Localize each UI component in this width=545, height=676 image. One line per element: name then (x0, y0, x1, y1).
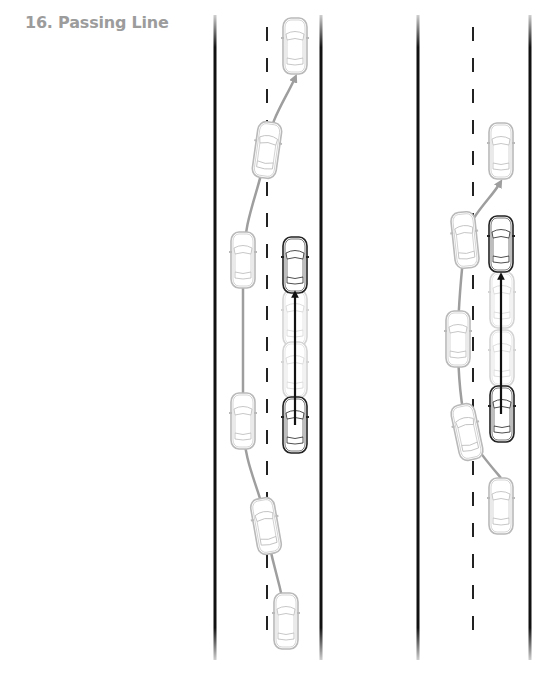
lane-dash (266, 244, 268, 258)
car-gray-icon (487, 478, 515, 534)
lane-dash (266, 27, 268, 41)
lane-dash (472, 27, 474, 41)
lane-dash (472, 616, 474, 630)
road-edge-left (417, 15, 420, 660)
lane-dash (472, 523, 474, 537)
lane-dash (266, 461, 268, 475)
lane-dash (266, 554, 268, 568)
road-edge-right (529, 15, 532, 660)
car-gray-icon (444, 311, 472, 367)
lane-dash (266, 275, 268, 289)
road-edge-left (214, 15, 217, 660)
car-dark-icon (281, 237, 309, 293)
lane-dash (472, 492, 474, 506)
lane-dash (472, 337, 474, 351)
car-gray-icon (229, 232, 257, 288)
lane-dash (472, 275, 474, 289)
diagram-correct-passing (417, 15, 532, 660)
lane-dash (472, 151, 474, 165)
lane-dash (472, 554, 474, 568)
lane-dash (472, 182, 474, 196)
car-gray-icon (487, 123, 515, 179)
lane-dash (266, 368, 268, 382)
car-gray-icon (247, 496, 284, 556)
lane-dash (472, 368, 474, 382)
passing-line-diagram (0, 0, 545, 676)
lane-dash (266, 430, 268, 444)
lane-dash (266, 306, 268, 320)
lane-dash (266, 58, 268, 72)
lane-dash (266, 616, 268, 630)
lane-dash (472, 461, 474, 475)
lane-dash (266, 585, 268, 599)
lane-dash (472, 58, 474, 72)
lane-dash (472, 89, 474, 103)
lane-dash (472, 585, 474, 599)
lane-dash (266, 337, 268, 351)
diagram-incorrect-passing (214, 15, 323, 660)
road-edge-right (320, 15, 323, 660)
lane-dash (472, 120, 474, 134)
lane-dash (266, 213, 268, 227)
car-gray-icon (249, 120, 285, 179)
car-gray-icon (272, 593, 300, 649)
lane-dash (266, 399, 268, 413)
lane-dash (266, 182, 268, 196)
car-gray-icon (447, 402, 486, 463)
lane-dash (266, 89, 268, 103)
car-dark-icon (487, 216, 515, 272)
car-gray-icon (448, 211, 482, 270)
lane-dash (472, 306, 474, 320)
car-gray-icon (229, 393, 257, 449)
car-gray-icon (281, 18, 309, 74)
